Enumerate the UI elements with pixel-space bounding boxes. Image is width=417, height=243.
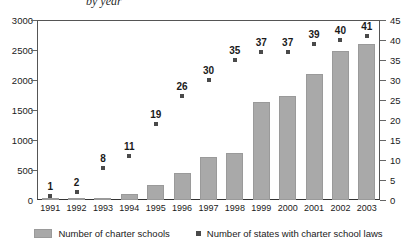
data-point-marker bbox=[233, 58, 237, 62]
data-point-marker bbox=[259, 50, 263, 54]
y-axis-right-tick-mark bbox=[380, 140, 386, 141]
y-axis-right-tick-mark bbox=[380, 160, 386, 161]
chart-legend: Number of charter schools Number of stat… bbox=[0, 224, 417, 243]
x-axis-tick-label: 1999 bbox=[251, 203, 271, 213]
data-point-marker bbox=[312, 42, 316, 46]
y-axis-right-tick-label: 45 bbox=[390, 15, 416, 26]
y-axis-left-tick-label: 500 bbox=[0, 165, 33, 176]
data-point-label: 30 bbox=[203, 65, 214, 76]
x-axis-tick-label: 1996 bbox=[172, 203, 192, 213]
data-point-marker bbox=[48, 194, 52, 198]
bar bbox=[306, 74, 323, 200]
y-axis-right-tick-label: 30 bbox=[390, 75, 416, 86]
bar bbox=[94, 198, 111, 200]
y-axis-left-tick-label: 2000 bbox=[0, 75, 33, 86]
data-point-marker bbox=[180, 94, 184, 98]
square-marker-icon bbox=[196, 231, 201, 236]
data-point-label: 35 bbox=[229, 45, 240, 56]
y-axis-right-tick-mark bbox=[380, 20, 386, 21]
legend-label-charter-schools: Number of charter schools bbox=[58, 228, 169, 239]
data-point-label: 37 bbox=[256, 37, 267, 48]
y-axis-right-tick-mark bbox=[380, 180, 386, 181]
y-axis-right-tick-mark bbox=[380, 200, 386, 201]
data-point-label: 11 bbox=[124, 141, 135, 152]
data-point-marker bbox=[338, 38, 342, 42]
y-axis-right-tick-mark bbox=[380, 60, 386, 61]
data-point-marker bbox=[286, 50, 290, 54]
y-axis-right-tick-mark bbox=[380, 40, 386, 41]
y-axis-left-tick-label: 3000 bbox=[0, 15, 33, 26]
data-point-marker bbox=[127, 154, 131, 158]
y-axis-right-tick-mark bbox=[380, 120, 386, 121]
data-point-label: 37 bbox=[282, 37, 293, 48]
y-axis-right-tick-label: 5 bbox=[390, 175, 416, 186]
y-axis-right-tick-label: 20 bbox=[390, 115, 416, 126]
chart-container: by year 050010001500200025003000 0510152… bbox=[0, 0, 417, 243]
x-axis-tick-label: 2000 bbox=[278, 203, 298, 213]
bar bbox=[68, 198, 85, 200]
data-point-label: 41 bbox=[361, 21, 372, 32]
legend-item-charter-schools: Number of charter schools bbox=[34, 228, 169, 239]
y-axis-left-tick-label: 1000 bbox=[0, 135, 33, 146]
bar bbox=[332, 51, 349, 200]
data-point-label: 26 bbox=[177, 81, 188, 92]
data-point-marker bbox=[207, 78, 211, 82]
y-axis-right-tick-mark bbox=[380, 80, 386, 81]
legend-label-states-with-laws: Number of states with charter school law… bbox=[207, 228, 383, 239]
bar bbox=[253, 102, 270, 200]
data-point-marker bbox=[154, 122, 158, 126]
x-axis-tick-label: 1997 bbox=[198, 203, 218, 213]
data-point-marker bbox=[101, 166, 105, 170]
y-axis-right-tick-label: 25 bbox=[390, 95, 416, 106]
y-axis-left-tick-label: 1500 bbox=[0, 105, 33, 116]
bar bbox=[121, 194, 138, 200]
y-axis-left-tick-label: 2500 bbox=[0, 45, 33, 56]
bar bbox=[174, 173, 191, 200]
data-point-label: 8 bbox=[100, 153, 106, 164]
data-point-marker bbox=[365, 34, 369, 38]
chart-title: by year bbox=[86, 0, 122, 9]
y-axis-right-tick-label: 35 bbox=[390, 55, 416, 66]
x-axis-tick-label: 1992 bbox=[67, 203, 87, 213]
y-axis-right-tick-label: 0 bbox=[390, 195, 416, 206]
legend-item-states-with-laws: Number of states with charter school law… bbox=[196, 228, 383, 239]
bar bbox=[200, 157, 217, 200]
y-axis-right-tick-label: 40 bbox=[390, 35, 416, 46]
y-axis-right-tick-label: 10 bbox=[390, 155, 416, 166]
x-axis-tick-label: 1995 bbox=[146, 203, 166, 213]
y-axis-right-tick-label: 15 bbox=[390, 135, 416, 146]
x-axis-tick-label: 1998 bbox=[225, 203, 245, 213]
bar bbox=[358, 44, 375, 200]
x-axis-tick-label: 1994 bbox=[119, 203, 139, 213]
bar bbox=[147, 185, 164, 200]
data-point-label: 2 bbox=[74, 177, 80, 188]
y-axis-left-tick-label: 0 bbox=[0, 195, 33, 206]
data-point-label: 1 bbox=[47, 181, 53, 192]
bar-swatch-icon bbox=[34, 229, 52, 238]
x-axis-tick-label: 2003 bbox=[357, 203, 377, 213]
data-point-label: 19 bbox=[150, 109, 161, 120]
bar bbox=[42, 198, 59, 200]
x-axis-tick-label: 2002 bbox=[330, 203, 350, 213]
x-axis-tick-label: 1993 bbox=[93, 203, 113, 213]
data-point-label: 40 bbox=[335, 25, 346, 36]
bar-series-number-of-charter-schools bbox=[37, 20, 380, 200]
data-point-label: 39 bbox=[308, 29, 319, 40]
x-axis-tick-label: 1991 bbox=[40, 203, 60, 213]
bar bbox=[279, 96, 296, 200]
y-axis-right-tick-mark bbox=[380, 100, 386, 101]
bar bbox=[226, 153, 243, 200]
x-axis-tick-label: 2001 bbox=[304, 203, 324, 213]
data-point-marker bbox=[75, 190, 79, 194]
